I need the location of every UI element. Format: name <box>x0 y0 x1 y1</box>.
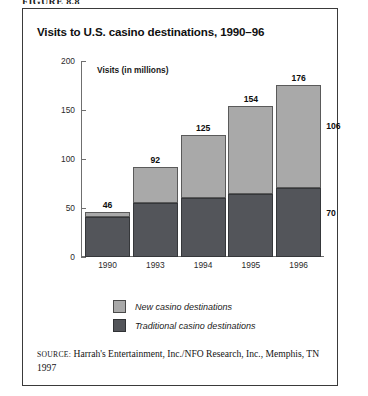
y-axis-label: 0 <box>35 252 75 262</box>
y-axis-label: 150 <box>35 105 75 115</box>
legend-item-traditional: Traditional casino destinations <box>113 316 255 335</box>
y-axis-label: 50 <box>35 203 75 213</box>
bar-group: 17610670 <box>276 85 321 257</box>
x-axis-label: 1995 <box>228 260 273 270</box>
y-axis-label: 100 <box>35 154 75 164</box>
bar-total-label: 176 <box>276 73 321 83</box>
legend-label-new: New casino destinations <box>135 302 232 312</box>
figure-box: Visits to U.S. casino destinations, 1990… <box>22 8 338 386</box>
bar-segment-new <box>85 212 130 217</box>
bar-segment-traditional <box>133 203 178 257</box>
bar-segment-new <box>133 167 178 203</box>
legend-label-traditional: Traditional casino destinations <box>135 321 255 331</box>
bar-segment-traditional <box>228 194 273 257</box>
legend-swatch-traditional-icon <box>113 319 126 332</box>
bar-segment-traditional <box>181 198 226 257</box>
legend-swatch-new-icon <box>113 300 126 313</box>
source-note: SOURCE: Harrah's Entertainment, Inc./NFO… <box>37 347 327 374</box>
source-label: SOURCE: <box>37 350 71 359</box>
bar-total-label: 92 <box>133 155 178 165</box>
x-axis-label: 1996 <box>276 260 321 270</box>
bar-series-group: 465419237551256560154906417610670 <box>82 61 324 257</box>
bar-value-label-new: 106 <box>326 121 340 131</box>
bar-total-label: 125 <box>181 123 226 133</box>
bar-segment-new <box>181 135 226 199</box>
x-axis-label: 1993 <box>133 260 178 270</box>
bar-total-label: 46 <box>85 200 130 210</box>
bar-total-label: 154 <box>228 94 273 104</box>
chart-title: Visits to U.S. casino destinations, 1990… <box>37 25 264 38</box>
bar-group: 46541 <box>85 212 130 257</box>
figure-caption: FIGURE 8.8 <box>22 0 80 4</box>
source-text: Harrah's Entertainment, Inc./NFO Researc… <box>37 348 319 373</box>
y-axis-label: 200 <box>35 56 75 66</box>
x-axis-label: 1990 <box>85 260 130 270</box>
bar-segment-new <box>276 85 321 189</box>
bar-segment-traditional <box>276 188 321 257</box>
y-axis-tick <box>81 257 86 258</box>
bar-segment-traditional <box>85 217 130 257</box>
bar-value-label-traditional: 70 <box>326 208 336 218</box>
chart-legend: New casino destinations Traditional casi… <box>113 297 255 335</box>
bar-group: 923755 <box>133 167 178 257</box>
legend-item-new: New casino destinations <box>113 297 255 316</box>
chart-plot-area: Visits (in millions) 050100150200 465419… <box>35 53 327 275</box>
x-axis-label: 1994 <box>181 260 226 270</box>
bar-group: 1549064 <box>228 106 273 257</box>
bar-group: 1256560 <box>181 135 226 258</box>
bar-segment-new <box>228 106 273 194</box>
